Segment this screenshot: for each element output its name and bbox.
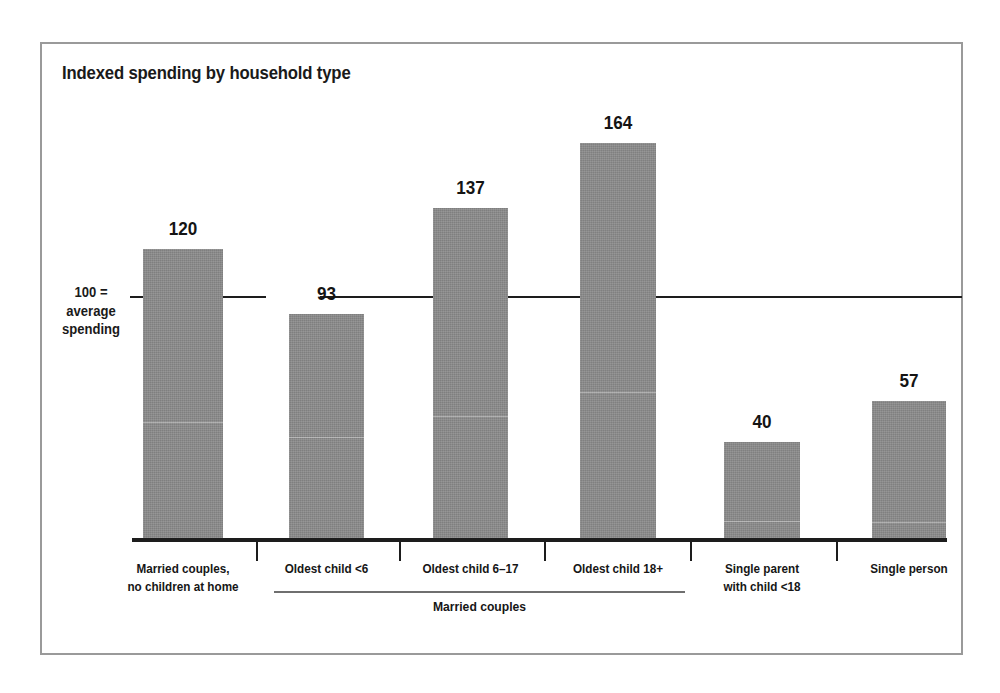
category-separator-tick — [256, 542, 258, 561]
category-label-line: Single person — [835, 560, 983, 578]
reference-line-label: 100 = average spending — [56, 283, 126, 339]
category-label: Oldest child 6–17 — [396, 560, 545, 578]
reference-label-line-1: 100 = — [56, 283, 126, 302]
bar-value-label: 137 — [419, 177, 523, 199]
category-label: Single person — [835, 560, 983, 578]
figure-frame: Indexed spending by household type 100 =… — [40, 42, 963, 655]
bar-chart-plot-area: 100 = average spending 120931371644057 M… — [42, 44, 965, 657]
category-separator-tick — [690, 542, 692, 561]
bar — [289, 314, 364, 538]
bar — [724, 442, 800, 538]
category-axis-baseline — [132, 538, 947, 542]
category-label-line: Oldest child 18+ — [543, 560, 692, 578]
bar — [143, 249, 223, 538]
category-label-line: Oldest child <6 — [252, 560, 401, 578]
category-label-line: Single parent — [687, 560, 836, 578]
group-bracket-label: Married couples — [295, 599, 665, 614]
bar — [433, 208, 508, 538]
bar-value-label: 57 — [858, 370, 961, 392]
category-label-line: Married couples, — [107, 560, 260, 578]
bar-value-label: 93 — [275, 283, 379, 305]
category-separator-tick — [544, 542, 546, 561]
bar-value-label: 164 — [566, 112, 670, 134]
bar-value-label: 120 — [129, 218, 237, 240]
category-separator-tick — [836, 542, 838, 561]
bar — [872, 401, 946, 538]
category-label: Oldest child <6 — [252, 560, 401, 578]
category-label-line: no children at home — [107, 578, 260, 596]
bar — [580, 143, 656, 538]
category-label-line: with child <18 — [687, 578, 836, 596]
category-separator-tick — [399, 542, 401, 561]
bar-value-label: 40 — [710, 411, 814, 433]
category-label: Single parentwith child <18 — [687, 560, 836, 595]
category-label: Oldest child 18+ — [543, 560, 692, 578]
group-bracket-rule — [274, 591, 685, 593]
reference-label-line-3: spending — [56, 320, 126, 339]
reference-label-line-2: average — [56, 302, 126, 321]
category-label-line: Oldest child 6–17 — [396, 560, 545, 578]
category-label: Married couples,no children at home — [107, 560, 260, 595]
